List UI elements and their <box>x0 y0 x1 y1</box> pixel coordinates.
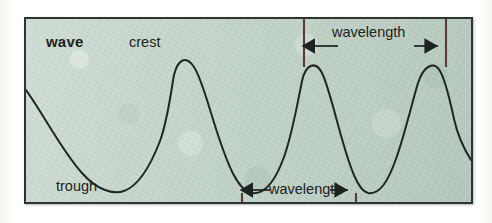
trough-label: trough <box>56 179 97 194</box>
wave-curve-path <box>26 60 471 193</box>
wave-title-label: wave <box>46 34 84 49</box>
wavelength-label-top: wavelength <box>332 25 405 40</box>
wavelength-label-bottom: wavelength <box>269 182 342 197</box>
wave-illustration-panel: wavelength wavelength wave crest trough <box>24 17 473 204</box>
wave-diagram-figure: wavelength wavelength wave crest trough <box>0 0 492 223</box>
crest-label: crest <box>129 35 160 50</box>
